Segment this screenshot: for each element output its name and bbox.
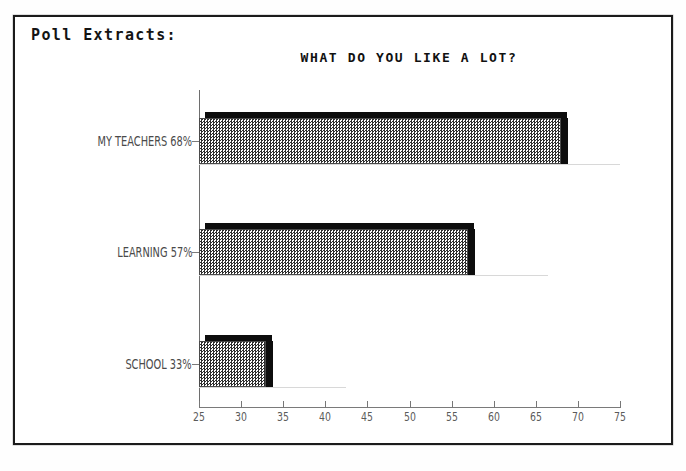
- x-axis-tick-label: 50: [399, 409, 421, 424]
- category-label: MY TEACHERS 68%: [40, 133, 192, 149]
- x-axis-tick: [620, 401, 621, 408]
- x-axis-tick: [325, 401, 326, 408]
- x-axis-tick-label: 65: [525, 409, 547, 424]
- bar-chart-plot-area: 2530354045505560657075 MY TEACHERS 68%LE…: [0, 0, 686, 471]
- x-axis-tick: [452, 401, 453, 408]
- bar: [199, 112, 568, 165]
- x-axis-tick-label: 55: [441, 409, 463, 424]
- category-label-text: SCHOOL 33%: [126, 356, 192, 372]
- category-label: LEARNING 57%: [40, 244, 192, 260]
- category-label-text: MY TEACHERS 68%: [97, 133, 192, 149]
- x-axis-tick-label: 35: [272, 409, 294, 424]
- bar-right-shadow: [561, 118, 568, 164]
- y-axis-tick: [192, 364, 199, 365]
- x-axis-tick: [410, 401, 411, 408]
- x-axis-tick: [367, 401, 368, 408]
- x-axis-tick-label: 60: [483, 409, 505, 424]
- bar-right-shadow: [468, 229, 475, 275]
- y-axis-tick: [192, 252, 199, 253]
- bar-baseline-guide: [199, 164, 620, 165]
- x-axis-tick-label: 75: [609, 409, 631, 424]
- x-axis-tick-label: 40: [314, 409, 336, 424]
- bar-face: [199, 341, 266, 387]
- bar-face: [199, 229, 468, 275]
- x-axis-tick-label: 70: [567, 409, 589, 424]
- category-label: SCHOOL 33%: [40, 356, 192, 372]
- bar-face: [199, 118, 561, 164]
- x-axis-tick: [241, 401, 242, 408]
- x-axis-tick: [536, 401, 537, 408]
- y-axis-tick: [192, 141, 199, 142]
- bar-baseline-guide: [199, 275, 548, 276]
- x-axis-tick-label: 30: [230, 409, 252, 424]
- bar-right-shadow: [266, 341, 273, 387]
- category-label-text: LEARNING 57%: [117, 244, 192, 260]
- x-axis-tick-label: 25: [188, 409, 210, 424]
- x-axis-tick: [199, 401, 200, 408]
- x-axis-tick: [494, 401, 495, 408]
- x-axis-tick: [283, 401, 284, 408]
- bar-baseline-guide: [199, 387, 346, 388]
- bar: [199, 223, 475, 276]
- x-axis-tick: [578, 401, 579, 408]
- bar: [199, 335, 273, 388]
- x-axis-tick-label: 45: [357, 409, 379, 424]
- page-canvas: Poll Extracts: WHAT DO YOU LIKE A LOT? 2…: [0, 0, 686, 471]
